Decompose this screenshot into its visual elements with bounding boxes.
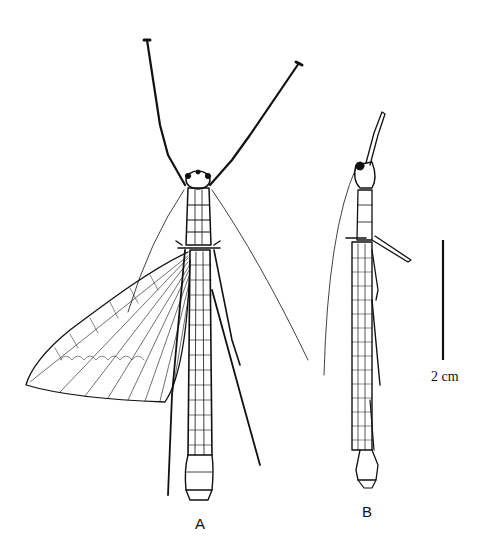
scale-bar-label: 2 cm [431,369,459,385]
scale-bar [0,0,484,560]
panel-label-b: B [362,503,372,520]
panel-label-a: A [195,515,205,532]
figure: 2 cm A B [0,0,484,560]
